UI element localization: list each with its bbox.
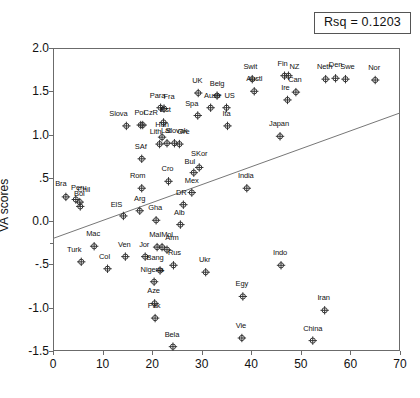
x-tickmark: [400, 351, 401, 355]
point-label: Rom: [130, 172, 146, 180]
x-tick-label: 60: [344, 357, 357, 371]
point-label: Lith: [150, 128, 162, 136]
point-label: Bol: [74, 190, 85, 198]
point-label: Ita: [222, 109, 230, 117]
point-label: Col: [99, 252, 110, 260]
point-label: Turk: [67, 245, 81, 253]
data-point-marker: [276, 132, 284, 140]
point-label: Bul: [185, 157, 196, 165]
point-label: Ven: [118, 240, 131, 248]
point-label: Indo: [273, 249, 287, 257]
data-point-marker: [277, 261, 285, 269]
data-point-marker: [201, 268, 209, 276]
point-label: Belg: [210, 79, 225, 87]
x-tick-label: 20: [145, 357, 158, 371]
data-point-marker: [90, 242, 98, 250]
point-label: Can: [288, 76, 301, 84]
data-point-marker: [292, 88, 300, 96]
point-label: Ukr: [199, 256, 210, 264]
data-point-marker: [283, 96, 291, 104]
y-tickmark: [49, 135, 53, 136]
x-tickmark: [152, 351, 153, 355]
data-point-marker: [163, 139, 171, 147]
data-point-marker: [321, 75, 329, 83]
y-tickmark: [49, 221, 53, 222]
point-label: Swe: [340, 63, 354, 71]
point-label: Egy: [236, 280, 249, 288]
data-point-marker: [331, 74, 339, 82]
data-point-marker: [150, 278, 158, 286]
point-label: Mac: [86, 230, 100, 238]
point-label: China: [303, 324, 322, 332]
y-tickmark: [49, 178, 53, 179]
data-point-marker: [164, 177, 172, 185]
x-tickmark: [301, 351, 302, 355]
point-label: Rus: [168, 249, 181, 257]
point-label: Japan: [269, 120, 289, 128]
point-label: Fin: [277, 59, 287, 67]
data-point-marker: [195, 163, 203, 171]
x-tick-label: 30: [195, 357, 208, 371]
point-label: Bra: [55, 179, 66, 187]
point-label: ElS: [111, 200, 122, 208]
point-label: Cro: [162, 165, 174, 173]
x-tickmark: [53, 351, 54, 355]
y-tickmark-minor: [50, 243, 53, 244]
point-label: Fra: [164, 92, 175, 100]
data-point-marker: [122, 122, 130, 130]
data-point-marker: [138, 184, 146, 192]
data-point-marker: [309, 336, 317, 344]
point-label: DR: [176, 188, 187, 196]
x-tick-label: 50: [294, 357, 307, 371]
point-label: Slova: [109, 109, 127, 117]
data-point-marker: [239, 292, 247, 300]
point-label: SKor: [191, 150, 207, 158]
point-label: Austr: [204, 91, 221, 99]
point-label: Nigeria: [141, 265, 164, 273]
point-label: Jor: [139, 240, 149, 248]
data-point-marker: [206, 104, 214, 112]
data-point-marker: [151, 314, 159, 322]
point-label: Spa: [185, 99, 198, 107]
data-point-marker: [169, 342, 177, 350]
point-label: India: [238, 172, 254, 180]
data-point-marker: [62, 193, 70, 201]
point-label: Austl: [246, 75, 262, 83]
point-label: Mal: [149, 231, 161, 239]
x-tick-label: 40: [245, 357, 258, 371]
x-tickmark: [103, 351, 104, 355]
data-point-marker: [103, 265, 111, 273]
plot-canvas: [0, 0, 420, 398]
point-label: Arg: [134, 194, 145, 202]
x-tickmark: [251, 351, 252, 355]
x-tickmark: [202, 351, 203, 355]
point-label: Iran: [317, 294, 330, 302]
data-point-marker: [119, 212, 127, 220]
point-label: Arm: [165, 233, 178, 241]
x-tick-label: 0: [50, 357, 57, 371]
point-label: Gre: [177, 128, 189, 136]
point-label: Nor: [368, 64, 380, 72]
point-label: UK: [192, 77, 202, 85]
point-label: Alb: [174, 208, 185, 216]
point-label: Swit: [243, 63, 257, 71]
data-point-marker: [243, 184, 251, 192]
point-label: Pak: [148, 302, 161, 310]
regression-fit-line: [53, 113, 400, 239]
data-point-marker: [238, 334, 246, 342]
data-point-marker: [169, 261, 177, 269]
point-label: NZ: [290, 62, 300, 70]
data-point-marker: [194, 89, 202, 97]
y-tickmark: [49, 264, 53, 265]
point-label: Bela: [165, 330, 180, 338]
point-label: Aze: [147, 287, 160, 295]
point-label: Vie: [236, 322, 246, 330]
point-label: Mex: [185, 176, 199, 184]
x-tick-label: 70: [393, 357, 406, 371]
point-label: SAf: [135, 142, 147, 150]
data-point-marker: [176, 220, 184, 228]
point-label: CzR: [144, 109, 158, 117]
y-tickmark: [49, 91, 53, 92]
data-point-marker: [371, 76, 379, 84]
point-label: Gha: [148, 204, 162, 212]
